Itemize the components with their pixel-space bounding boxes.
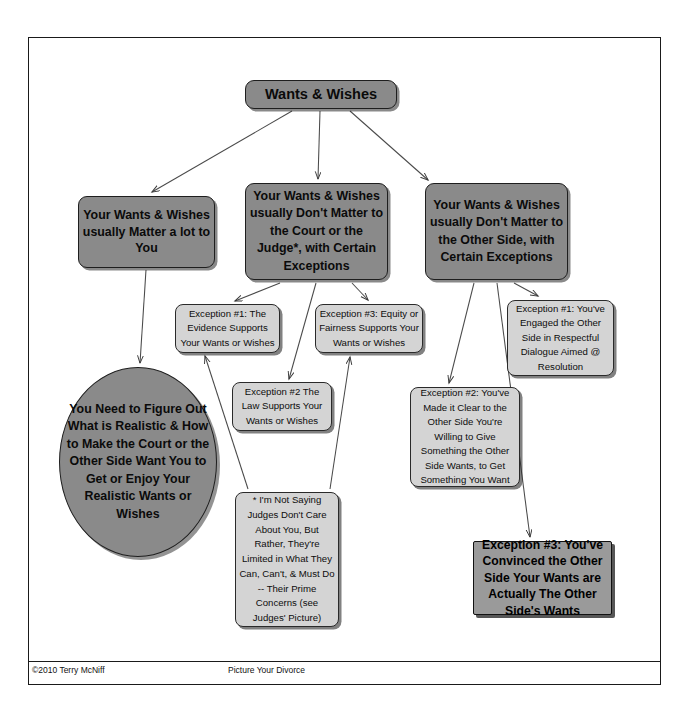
node-branch-court-label: Your Wants & Wishes usually Don't Matter… — [246, 188, 387, 276]
node-court-exception-3[interactable]: Exception #3: Equity or Fairness Support… — [315, 304, 423, 353]
node-court-exception-3-label: Exception #3: Equity or Fairness Support… — [316, 307, 422, 351]
node-branch-court[interactable]: Your Wants & Wishes usually Don't Matter… — [245, 183, 388, 280]
node-court-exception-2-label: Exception #2 The Law Supports Your Wants… — [233, 385, 331, 429]
node-judges-footnote[interactable]: * I'm Not Saying Judges Don't Care About… — [235, 492, 339, 627]
node-other-exception-2-label: Exception #2: You've Made it Clear to th… — [411, 386, 519, 488]
node-court-exception-1-label: Exception #1: The Evidence Supports Your… — [176, 307, 279, 351]
footer-divider — [28, 661, 661, 662]
node-other-exception-1[interactable]: Exception #1: You've Engaged the Other S… — [507, 300, 614, 376]
node-other-exception-3[interactable]: Exception #3: You've Convinced the Other… — [473, 541, 612, 615]
node-other-exception-1-label: Exception #1: You've Engaged the Other S… — [508, 302, 613, 375]
node-root-label: Wants & Wishes — [246, 87, 396, 102]
node-judges-footnote-label: * I'm Not Saying Judges Don't Care About… — [236, 493, 338, 625]
node-branch-you-label: Your Wants & Wishes usually Matter a lot… — [79, 207, 214, 257]
node-root[interactable]: Wants & Wishes — [245, 80, 397, 109]
diagram-canvas: Wants & Wishes Your Wants & Wishes usual… — [0, 0, 689, 709]
node-branch-you[interactable]: Your Wants & Wishes usually Matter a lot… — [78, 196, 215, 268]
copyright-text: ©2010 Terry McNiff — [32, 665, 105, 675]
node-outcome-oval-label: You Need to Figure Out What is Realistic… — [60, 401, 216, 524]
node-branch-other-side-label: Your Wants & Wishes usually Don't Matter… — [426, 197, 567, 267]
node-branch-other-side[interactable]: Your Wants & Wishes usually Don't Matter… — [425, 183, 568, 280]
node-court-exception-1[interactable]: Exception #1: The Evidence Supports Your… — [175, 304, 280, 353]
node-other-exception-2[interactable]: Exception #2: You've Made it Clear to th… — [410, 387, 520, 487]
node-other-exception-3-label: Exception #3: You've Convinced the Other… — [474, 537, 611, 620]
node-outcome-oval[interactable]: You Need to Figure Out What is Realistic… — [59, 367, 217, 557]
node-court-exception-2[interactable]: Exception #2 The Law Supports Your Wants… — [232, 382, 332, 431]
document-subtitle: Picture Your Divorce — [228, 665, 305, 675]
